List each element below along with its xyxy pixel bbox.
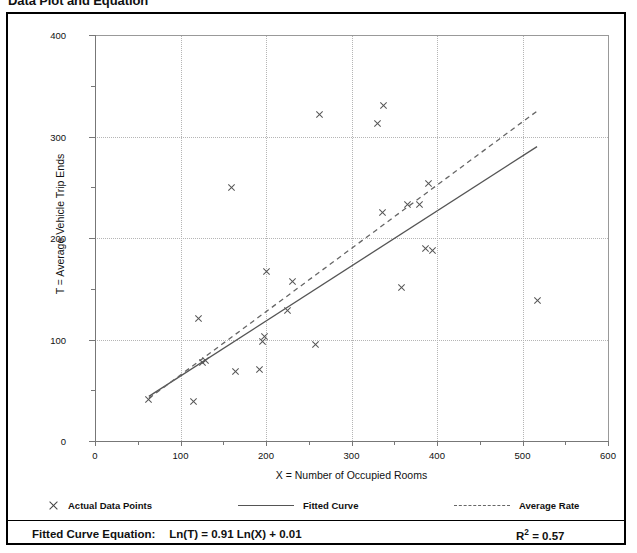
data-point-marker [194,314,203,323]
y-tick [89,238,95,239]
x-tick [223,441,224,445]
y-tick [89,441,95,442]
data-point-marker [379,101,388,110]
x-marker-icon [48,500,59,511]
data-point-marker [255,365,264,374]
data-point-marker [373,119,382,128]
gridline-horizontal [95,238,608,239]
solid-line-icon [238,505,294,506]
data-point-marker [315,110,324,119]
x-tick [480,441,481,445]
x-tick [266,441,267,446]
data-point-marker [428,246,437,255]
y-tick [89,340,95,341]
data-point-marker [283,306,292,315]
data-point-marker [397,283,406,292]
data-point-marker [144,395,153,404]
x-tick-label: 400 [429,450,445,461]
y-tick [89,35,95,36]
data-point-marker [533,296,542,305]
legend-label-average-rate: Average Rate [519,500,579,511]
average-rate-line [149,111,537,398]
x-tick [437,441,438,446]
x-tick [608,441,609,446]
gridline-horizontal [95,340,608,341]
data-point-marker [260,332,269,341]
x-tick [309,441,310,445]
r2-exponent: 2 [524,528,529,537]
legend-item-average-rate: Average Rate [454,494,579,516]
legend-label-actual-data-points: Actual Data Points [68,500,152,511]
y-tick-label: 400 [50,30,66,41]
x-tick [95,441,96,446]
x-tick-label: 0 [92,450,97,461]
y-tick [91,289,95,290]
equation-label: Fitted Curve Equation: [32,528,155,540]
data-point-marker [424,179,433,188]
r2-number: = 0.57 [532,530,564,542]
data-point-marker [288,277,297,286]
x-tick-label: 200 [258,450,274,461]
x-tick-label: 600 [600,450,616,461]
data-point-marker [311,340,320,349]
legend-label-fitted-curve: Fitted Curve [303,500,358,511]
y-tick [91,86,95,87]
x-tick-label: 300 [344,450,360,461]
y-axis-title: T = Average Vehicle Trip Ends [54,104,66,344]
data-point-marker [262,267,271,276]
y-tick [89,137,95,138]
plot-region: 01002003004005006000100200300400 X = Num… [0,0,637,553]
data-point-marker [378,208,387,217]
x-tick [523,441,524,446]
y-axis-line [95,35,96,442]
data-point-marker [403,200,412,209]
data-point-marker [201,356,210,365]
figure-panel: Data Plot and Equation 01002003004005006… [0,0,637,553]
x-tick [565,441,566,445]
r-squared-value: R2 = 0.57 [516,528,564,542]
data-point-marker [227,183,236,192]
legend-item-actual-data-points: Actual Data Points [48,494,152,516]
plot-right-border [608,35,609,442]
plot-top-border [95,35,609,36]
equation-row: Fitted Curve Equation:Ln(T) = 0.91 Ln(X)… [6,524,626,550]
x-tick-label: 500 [515,450,531,461]
gridline-horizontal [95,137,608,138]
x-axis-title: X = Number of Occupied Rooms [95,469,608,481]
equation-expression: Ln(T) = 0.91 Ln(X) + 0.01 [169,528,301,540]
data-point-marker [415,200,424,209]
x-tick [352,441,353,446]
x-tick [394,441,395,445]
fitted-curve-equation: Fitted Curve Equation:Ln(T) = 0.91 Ln(X)… [32,528,302,540]
data-point-marker [189,397,198,406]
legend-separator [8,520,624,521]
legend-item-fitted-curve: Fitted Curve [238,494,358,516]
y-tick-label: 0 [61,436,66,447]
data-point-marker [231,367,240,376]
legend: Actual Data Points Fitted Curve Average … [6,494,626,520]
x-tick [181,441,182,446]
y-tick [91,187,95,188]
dashed-line-icon [454,505,510,506]
x-tick [138,441,139,445]
x-tick-label: 100 [173,450,189,461]
y-tick [91,390,95,391]
